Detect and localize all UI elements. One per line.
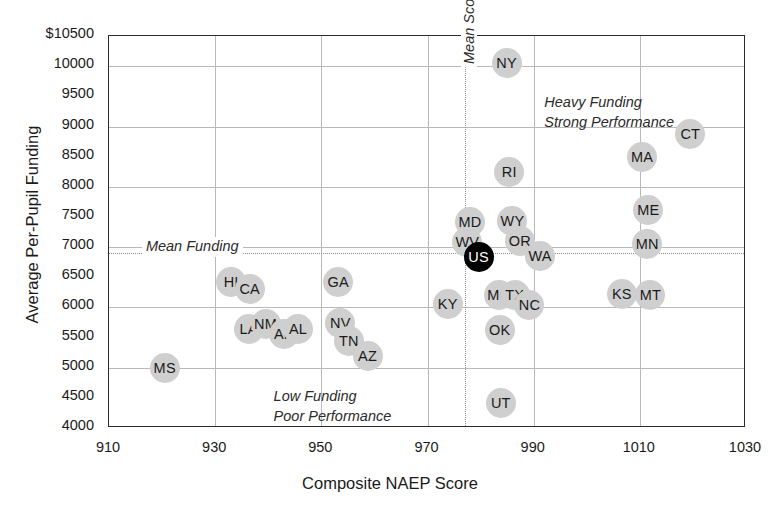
plot-area: Mean FundingMean ScoreHeavy Funding Stro… (108, 35, 745, 427)
y-tick-label: 7000 (0, 236, 100, 252)
data-point-mt[interactable]: MT (635, 280, 665, 310)
data-point-ms[interactable]: MS (150, 353, 180, 383)
data-point-label: NC (519, 297, 540, 313)
gridline-horizontal (109, 187, 744, 188)
data-point-label: KY (438, 296, 458, 312)
data-point-ma[interactable]: MA (627, 142, 657, 172)
data-point-ri[interactable]: RI (494, 157, 524, 187)
y-tick-label: 10000 (0, 55, 100, 71)
gridline-vertical (534, 36, 535, 426)
data-point-label: UT (491, 395, 511, 411)
gridline-vertical (428, 36, 429, 426)
data-point-label: CA (239, 281, 260, 297)
data-point-ct[interactable]: CT (675, 119, 705, 149)
y-tick-label: 6500 (0, 266, 100, 282)
data-point-label: WA (528, 248, 551, 264)
data-point-label: AL (289, 321, 307, 337)
y-tick-label: 9000 (0, 116, 100, 132)
data-point-ks[interactable]: KS (607, 279, 637, 309)
gridline-vertical (321, 36, 322, 426)
x-tick-label: 930 (202, 439, 226, 455)
quadrant-annotation: Low Funding Poor Performance (274, 387, 392, 426)
data-point-us[interactable]: US (464, 242, 494, 272)
x-tick-label: 1010 (623, 439, 655, 455)
data-point-ky[interactable]: KY (433, 289, 463, 319)
data-point-label: MT (640, 287, 661, 303)
y-tick-label: 5000 (0, 357, 100, 373)
y-tick-label: 6000 (0, 296, 100, 312)
data-point-ny[interactable]: NY (492, 48, 522, 78)
data-point-ca[interactable]: CA (235, 274, 265, 304)
x-tick-label: 950 (308, 439, 332, 455)
data-point-label: MA (631, 149, 653, 165)
data-point-label: RI (502, 164, 517, 180)
data-point-label: CT (680, 126, 700, 142)
quadrant-annotation: Heavy Funding Strong Performance (544, 93, 674, 132)
y-axis-title: Average Per-Pupil Funding (23, 75, 42, 375)
data-point-al[interactable]: AL (283, 314, 313, 344)
data-point-nc[interactable]: NC (514, 290, 544, 320)
gridline-horizontal (109, 66, 744, 67)
x-axis-title: Composite NAEP Score (0, 474, 780, 493)
gridline-horizontal (109, 368, 744, 369)
y-tick-label: 9500 (0, 85, 100, 101)
y-tick-label: 8500 (0, 146, 100, 162)
x-tick-label: 970 (414, 439, 438, 455)
data-point-mn[interactable]: MN (632, 229, 662, 259)
data-point-label: ME (637, 202, 659, 218)
y-tick-label: 5500 (0, 327, 100, 343)
mean-funding-label: Mean Funding (142, 237, 243, 257)
data-point-label: NY (496, 55, 517, 71)
data-point-az[interactable]: AZ (353, 341, 383, 371)
x-tick-label: 1030 (729, 439, 761, 455)
data-point-label: US (468, 249, 489, 265)
data-point-label: AZ (358, 348, 377, 364)
y-tick-label: 8000 (0, 176, 100, 192)
data-point-label: GA (328, 274, 349, 290)
scatter-chart: Mean FundingMean ScoreHeavy Funding Stro… (0, 0, 780, 506)
data-point-wa[interactable]: WA (525, 241, 555, 271)
data-point-label: OK (489, 322, 510, 338)
data-point-ut[interactable]: UT (486, 388, 516, 418)
data-point-label: MS (154, 360, 176, 376)
y-tick-label: $10500 (0, 25, 100, 41)
gridline-vertical (215, 36, 216, 426)
data-point-label: KS (612, 286, 632, 302)
data-point-ok[interactable]: OK (485, 315, 515, 345)
x-tick-label: 990 (521, 439, 545, 455)
data-point-label: MN (636, 236, 659, 252)
data-point-me[interactable]: ME (633, 195, 663, 225)
x-tick-label: 910 (96, 439, 120, 455)
y-tick-label: 4500 (0, 387, 100, 403)
y-tick-label: 4000 (0, 417, 100, 433)
mean-score-label: Mean Score (461, 0, 477, 67)
data-point-ga[interactable]: GA (323, 267, 353, 297)
y-tick-label: 7500 (0, 206, 100, 222)
